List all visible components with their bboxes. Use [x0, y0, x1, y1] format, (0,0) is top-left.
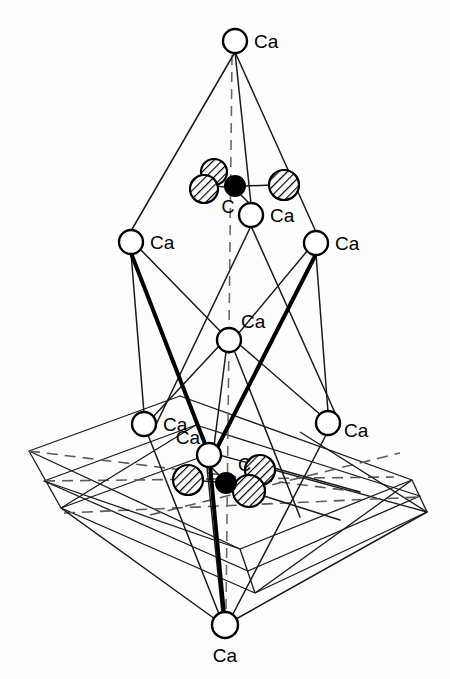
calcium-atoms	[119, 29, 340, 638]
label-ca-top: Ca	[254, 31, 279, 52]
label-ca-lower-right: Ca	[344, 420, 369, 441]
calcium-atom	[217, 328, 241, 352]
tie-o-lower-right2-to-cell	[264, 496, 340, 520]
label-c-lower: C	[238, 455, 251, 475]
structure-diagram: Ca Ca Ca Ca Ca Ca Ca Ca Ca C C	[0, 0, 450, 679]
bond-network-thin	[61, 52, 427, 619]
calcium-atom	[212, 612, 238, 638]
cell-edge-left	[29, 451, 61, 508]
label-ca-center: Ca	[241, 311, 266, 332]
cell-inner-face	[44, 425, 420, 571]
carbon-atom	[225, 176, 245, 196]
calcium-atom	[119, 230, 143, 254]
label-c-upper: C	[222, 197, 235, 217]
bond-upperright-to-lowerright	[316, 254, 328, 412]
calcium-atom	[239, 203, 263, 227]
label-ca-upper-left: Ca	[150, 232, 175, 253]
bond-top-to-upperleft	[131, 52, 235, 231]
calcium-atom	[304, 231, 328, 255]
calcium-atom	[316, 411, 340, 435]
label-ca-lower-mid: Ca	[176, 427, 201, 448]
cell-strut-3	[255, 480, 412, 593]
bond-bottom-to-cell-right	[236, 512, 427, 619]
bond-bottom-to-cell-left	[61, 508, 215, 619]
label-ca-upper-mid: Ca	[270, 205, 295, 226]
bond-c-lower-to-o-left	[203, 481, 216, 482]
oxygen-atom	[233, 475, 265, 507]
carbon-atom	[216, 473, 236, 493]
calcium-atom	[132, 412, 156, 436]
oxygen-atom	[173, 465, 203, 495]
tie-o-lower-right-to-cell	[274, 468, 360, 492]
bond-center-to-lowerleft	[152, 346, 219, 418]
calcium-atom	[223, 29, 247, 53]
oxygen-atom	[190, 175, 218, 203]
label-ca-bottom: Ca	[213, 645, 238, 666]
atom-labels: Ca Ca Ca Ca Ca Ca Ca Ca Ca C C	[150, 31, 369, 666]
calcium-atom	[197, 443, 221, 467]
label-ca-upper-right: Ca	[335, 233, 360, 254]
oxygen-atom	[269, 170, 299, 200]
crystal-structure-figure: Ca Ca Ca Ca Ca Ca Ca Ca Ca C C	[0, 0, 450, 679]
bond-upperleft-to-center	[140, 249, 222, 333]
